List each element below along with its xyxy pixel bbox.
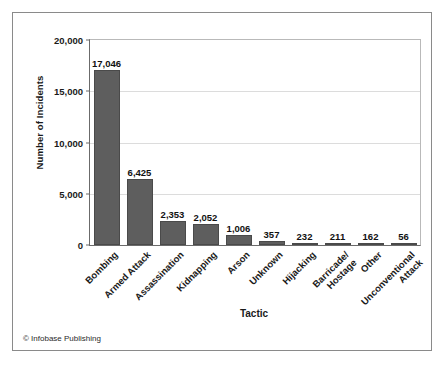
chart-figure: Number of Incidents 05,00010,00015,00020… [12, 12, 432, 351]
y-tick-mark [86, 40, 90, 41]
x-tick-label: Other [358, 249, 384, 275]
y-tick-label: 20,000 [54, 35, 83, 46]
bar-value-label: 2,353 [161, 209, 185, 220]
bar-value-label: 1,006 [227, 223, 251, 234]
y-tick-mark [86, 193, 90, 194]
x-tick-label-line: Other [358, 249, 384, 275]
bar-value-label: 232 [297, 231, 313, 242]
bar-value-label: 357 [264, 229, 280, 240]
bar-value-label: 162 [363, 231, 379, 242]
y-tick-mark [86, 142, 90, 143]
x-tick-label-line: Unknown [246, 249, 284, 287]
bar[interactable]: 17,046 [94, 70, 120, 245]
y-tick-mark [86, 91, 90, 92]
copyright-credit: © Infobase Publishing [23, 334, 101, 343]
y-tick-label: 10,000 [54, 137, 83, 148]
bar-value-label: 56 [398, 231, 409, 242]
gridline [90, 91, 420, 92]
bar[interactable]: 56 [391, 243, 417, 245]
x-axis-title: Tactic [89, 308, 419, 319]
bar[interactable]: 162 [358, 243, 384, 245]
y-tick-label: 15,000 [54, 86, 83, 97]
x-tick-label: Arson [224, 249, 251, 276]
y-tick-label: 5,000 [59, 188, 83, 199]
bar-value-label: 17,046 [92, 58, 121, 69]
y-axis-title: Number of Incidents [34, 63, 45, 183]
y-tick-label: 0 [78, 240, 83, 251]
y-tick-mark [86, 245, 90, 246]
x-tick-label: Unknown [246, 249, 284, 287]
gridline [90, 143, 420, 144]
bar[interactable]: 357 [259, 241, 285, 245]
bar[interactable]: 6,425 [127, 179, 153, 245]
bar-value-label: 211 [330, 231, 345, 242]
bar[interactable]: 2,052 [193, 224, 219, 245]
bar[interactable]: 2,353 [160, 221, 186, 245]
bar[interactable]: 232 [292, 243, 318, 245]
bar-value-label: 6,425 [128, 167, 152, 178]
plot-area: 05,00010,00015,00020,00017,046Bombing6,4… [89, 39, 421, 246]
bar-value-label: 2,052 [194, 212, 218, 223]
bar[interactable]: 211 [325, 243, 351, 245]
x-tick-label-line: Arson [224, 249, 251, 276]
bar[interactable]: 1,006 [226, 235, 252, 245]
